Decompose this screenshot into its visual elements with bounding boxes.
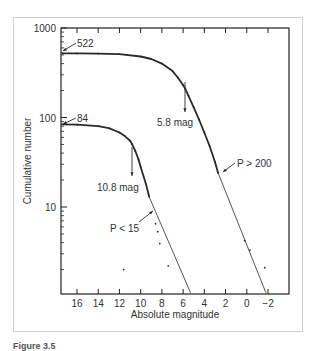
curve-point [145,183,147,185]
curve-point [119,132,121,134]
x-tick-label: 12 [114,298,126,309]
annotation-p-gt-200: P > 200 [237,158,272,169]
y-tick-label: 100 [39,113,56,124]
curve-point [209,145,211,147]
fit-line-1 [149,197,190,293]
x-tick-label: 14 [93,298,105,309]
curve-point [198,119,200,121]
annotation-84: 84 [77,113,89,124]
curve-point [97,125,99,127]
x-tick-label: 8 [159,298,165,309]
curve-point [76,53,78,55]
annotation-10-8-mag: 10.8 mag [97,182,139,193]
x-tick-label: 6 [180,298,186,309]
scatter-point [123,269,125,271]
scatter-point [157,231,159,233]
curve-point [172,70,174,72]
curve-point [61,52,63,54]
x-tick-label: 2 [223,298,229,309]
x-tick-label: 4 [202,298,208,309]
curve-point [193,106,195,108]
annotation-522: 522 [77,38,94,49]
figure-caption: Figure 3.5 [13,341,56,351]
scatter-point [244,240,246,242]
scatter-point [155,223,157,225]
x-tick-label: 0 [244,298,250,309]
x-tick-label: 16 [71,298,83,309]
curve-point [182,84,184,86]
curve-point [129,140,131,142]
curve-point [108,127,110,129]
arrow-10-8-mag-head [130,172,133,176]
arrow-5-8-mag-head [183,108,186,112]
curve-point [119,53,121,55]
curve-point [124,135,126,137]
curve-point [138,159,140,161]
curve-point [177,77,179,79]
curve-point [214,161,216,163]
y-tick-label: 1000 [34,23,57,34]
curve-point [140,166,142,168]
series [61,52,266,292]
curve-point [134,150,136,152]
x-axis-label: Absolute magnitude [131,309,220,320]
curve-point [131,144,133,146]
annotation-5-8-mag: 5.8 mag [157,117,193,128]
curve-point [161,63,163,65]
scatter-point [167,265,169,267]
x-tick-label: −2 [262,298,274,309]
fit-line-0 [218,173,266,293]
y-tick-label: 10 [45,202,57,213]
curve-point [203,132,205,134]
scatter-point [264,267,266,269]
curve-point [150,58,152,60]
curve-point [188,95,190,97]
curve-point [61,123,63,125]
scatter-point [249,249,251,251]
scatter-point [159,243,161,245]
curve-point [76,124,78,126]
curve-point [140,56,142,58]
x-tick-label: 10 [135,298,147,309]
curve-point [97,53,99,55]
y-axis-label: Cumulative number [22,117,33,204]
annotation-p-lt-15: P < 15 [110,223,139,234]
